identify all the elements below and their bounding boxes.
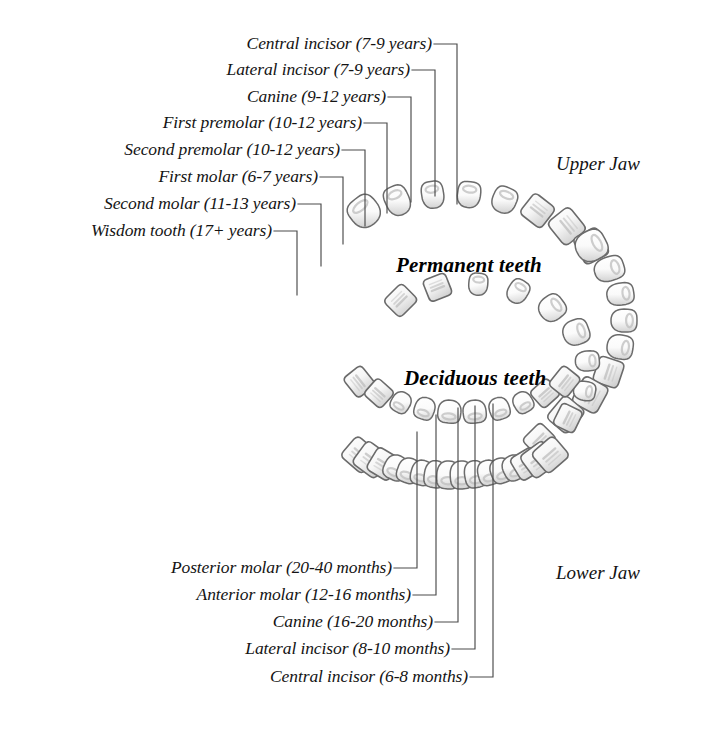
upper-jaw-label: Upper Jaw: [556, 154, 640, 173]
deciduous-label-anterior-molar: Anterior molar (12-16 months): [197, 586, 411, 604]
permanent-label-wisdom-tooth: Wisdom tooth (17+ years): [91, 222, 272, 240]
leader-line-central-incisor: [470, 404, 493, 677]
deciduous-upper-tooth-1: [423, 273, 451, 301]
leader-lines-deciduous: [394, 404, 493, 677]
arch-permanent-upper-teeth: [347, 181, 608, 264]
deciduous-teeth-title: Deciduous teeth: [404, 368, 546, 389]
leader-line-second-molar: [298, 204, 321, 266]
arch-deciduous-upper-teeth: [385, 273, 600, 455]
deciduous-label-canine: Canine (16-20 months): [273, 613, 433, 631]
arch-permanent-lower-teeth: [548, 229, 637, 433]
permanent-teeth-title: Permanent teeth: [396, 255, 542, 276]
lower-jaw-label: Lower Jaw: [556, 563, 640, 582]
leader-line-central-incisor: [434, 44, 457, 204]
deciduous-upper-tooth-0: [385, 285, 417, 317]
permanent-label-first-premolar: First premolar (10-12 years): [163, 114, 362, 132]
leader-line-lateral-incisor: [452, 406, 475, 649]
leader-line-lateral-incisor: [412, 70, 435, 196]
permanent-label-lateral-incisor: Lateral incisor (7-9 years): [227, 61, 410, 79]
deciduous-label-lateral-incisor: Lateral incisor (8-10 months): [245, 640, 450, 658]
leader-line-canine: [435, 408, 458, 622]
permanent-label-canine: Canine (9-12 years): [247, 88, 386, 106]
leader-line-first-molar: [320, 177, 343, 244]
dental-eruption-diagram: Central incisor (7-9 years)Lateral incis…: [0, 0, 702, 730]
leader-line-wisdom-tooth: [274, 231, 297, 295]
deciduous-label-central-incisor: Central incisor (6-8 months): [270, 668, 468, 686]
arch-deciduous-lower-teeth: [342, 437, 568, 489]
permanent-label-second-premolar: Second premolar (10-12 years): [124, 141, 340, 159]
permanent-label-central-incisor: Central incisor (7-9 years): [247, 35, 432, 53]
permanent-label-first-molar: First molar (6-7 years): [158, 168, 318, 186]
permanent-label-second-molar: Second molar (11-13 years): [104, 195, 296, 213]
leader-line-posterior-molar: [394, 432, 417, 568]
deciduous-label-posterior-molar: Posterior molar (20-40 months): [171, 559, 392, 577]
